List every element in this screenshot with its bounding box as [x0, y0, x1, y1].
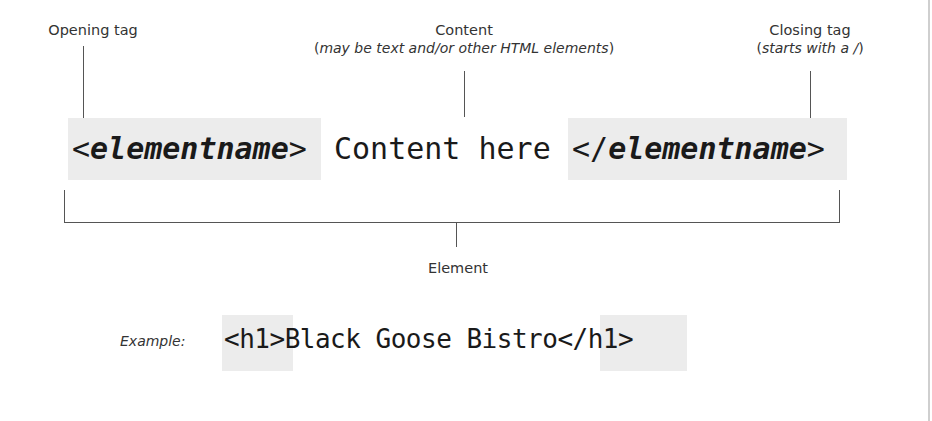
element-bracket-bottom [64, 222, 840, 223]
example-content: Black Goose Bistro [285, 324, 558, 354]
element-label-text: Element [428, 260, 488, 276]
element-bracket-left [64, 190, 65, 223]
closing-tag-title: Closing tag [769, 22, 850, 38]
content-subtitle-italic: may be text and/or other HTML elements [319, 40, 608, 56]
content-title: Content [435, 22, 493, 38]
example-code: <h1>Black Goose Bistro</h1> [224, 322, 633, 356]
content-label: Content (may be text and/or other HTML e… [264, 21, 664, 57]
opening-tag-lt: < [72, 131, 90, 166]
example-label-text: Example: [120, 333, 185, 349]
closing-tag-name: elementname [608, 131, 807, 166]
page-edge-divider [928, 0, 930, 421]
example-close-tag: </h1> [557, 324, 633, 354]
content-code: Content here [334, 129, 551, 169]
content-subtitle: (may be text and/or other HTML elements) [264, 39, 664, 57]
opening-tag-pointer [83, 46, 84, 120]
closing-tag-label: Closing tag (starts with a /) [730, 21, 890, 57]
opening-tag-gt: > [289, 131, 307, 166]
content-text: Content here [334, 131, 551, 166]
closing-tag-gt: > [807, 131, 825, 166]
closing-tag-subtitle-italic: starts with a / [762, 40, 858, 56]
closing-tag-code: </elementname> [572, 129, 825, 169]
opening-tag-name: elementname [90, 131, 289, 166]
closing-tag-lt-slash: </ [572, 131, 608, 166]
opening-tag-label: Opening tag [30, 21, 156, 39]
element-label: Element [408, 259, 508, 277]
example-label: Example: [120, 333, 185, 349]
content-pointer [464, 71, 465, 117]
element-bracket-right [839, 190, 840, 223]
opening-tag-code: <elementname> [72, 129, 307, 169]
content-subtitle-close: ) [609, 40, 614, 56]
closing-tag-pointer [810, 71, 811, 120]
opening-tag-title: Opening tag [48, 22, 138, 38]
closing-tag-subtitle: (starts with a /) [730, 39, 890, 57]
closing-tag-subtitle-close: ) [858, 40, 863, 56]
example-open-tag: <h1> [224, 324, 285, 354]
element-bracket-stem [456, 222, 457, 247]
